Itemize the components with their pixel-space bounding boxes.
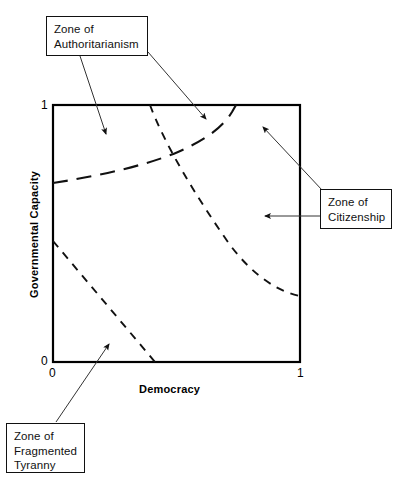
- leader-authoritarianism-left: [80, 56, 106, 134]
- plot-frame: [53, 105, 300, 362]
- leader-fragmented-tyranny: [56, 344, 109, 422]
- citizenship-boundary-line: [150, 105, 300, 296]
- y-axis-tick-max: 1: [41, 98, 48, 112]
- y-axis-title: Governmental Capacity: [28, 171, 40, 298]
- annotation-zone-of-authoritarianism: Zone of Authoritarianism: [46, 16, 148, 56]
- annotation-zone-of-fragmented-tyranny: Zone of Fragmented Tyranny: [6, 423, 85, 473]
- fragmented-tyranny-boundary-line: [53, 241, 155, 362]
- diagram-svg: [0, 0, 408, 488]
- annotation-zone-of-citizenship: Zone of Citizenship: [320, 189, 392, 229]
- x-axis-tick-max: 1: [297, 366, 304, 380]
- y-axis-tick-min: 0: [41, 354, 48, 368]
- figure-canvas: Zone of Authoritarianism Zone of Citizen…: [0, 0, 408, 488]
- x-axis-title: Democracy: [139, 383, 200, 395]
- capacity-boundary-curve: [53, 105, 236, 183]
- leader-authoritarianism-right: [148, 52, 206, 119]
- leader-citizenship-upper: [263, 127, 322, 190]
- x-axis-tick-min: 0: [49, 366, 56, 380]
